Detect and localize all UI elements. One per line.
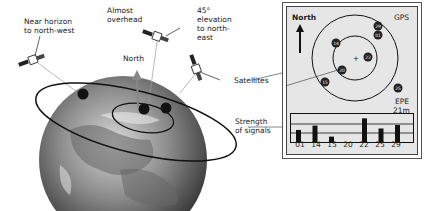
label-strength-of-signals: Strength of signals: [235, 117, 271, 135]
label-satellites: Satellites: [234, 76, 269, 85]
satellite-marker: 01: [374, 31, 383, 40]
gps-screen: North GPS + 29011422201525 EPE 21m 01141…: [282, 2, 422, 159]
svg-text:29: 29: [375, 24, 381, 29]
label-near-horizon: Near horizon to north-west: [24, 17, 74, 35]
satellite-marker: 15: [321, 78, 330, 87]
satellite-marker: 22: [364, 53, 373, 62]
signal-id-label: 20: [340, 140, 356, 149]
signal-id-label: 29: [388, 140, 404, 149]
satellite-icon: [187, 53, 204, 81]
svg-text:15: 15: [322, 80, 328, 85]
signal-id-label: 01: [292, 140, 308, 149]
epe-label: EPE: [395, 97, 409, 106]
satellite-marker: 25: [394, 84, 403, 93]
satellite-marker: 20: [338, 66, 347, 75]
signal-id-label: 25: [372, 140, 388, 149]
signal-strength-chart: [290, 113, 414, 143]
svg-text:01: 01: [375, 33, 381, 38]
signal-id-label: 22: [356, 140, 372, 149]
signal-id-label: 14: [308, 140, 324, 149]
svg-text:20: 20: [339, 68, 345, 73]
label-almost-overhead: Almost overhead: [107, 6, 142, 24]
svg-text:25: 25: [395, 86, 401, 91]
svg-text:22: 22: [365, 55, 371, 60]
satellite-marker: 14: [332, 39, 341, 48]
svg-text:+: +: [353, 55, 359, 63]
satellite-marker: 29: [374, 22, 383, 31]
label-north: North: [123, 54, 144, 63]
signal-id-label: 15: [324, 140, 340, 149]
satellite-icon: [17, 52, 45, 69]
earth-globe: [39, 76, 207, 211]
svg-text:14: 14: [333, 41, 339, 46]
gps-screen-display: North GPS + 29011422201525 EPE 21m 01141…: [286, 6, 418, 155]
signal-ids: 01141520222529: [292, 140, 416, 149]
label-45-elevation: 45° elevation to north- east: [197, 6, 232, 42]
satellite-icon: [141, 27, 169, 44]
